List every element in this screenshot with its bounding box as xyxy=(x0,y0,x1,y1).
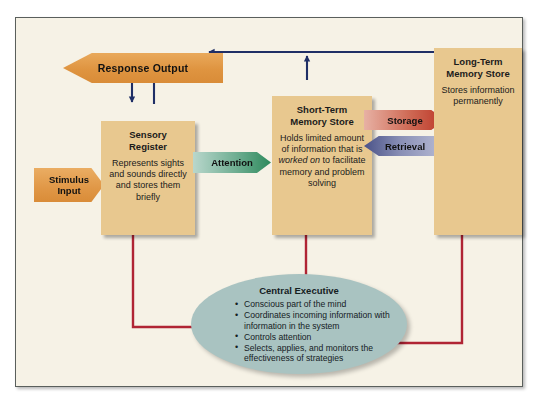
stimulus-input-arrow: Stimulus Input xyxy=(34,168,104,202)
stimulus-input-label-line1: Stimulus xyxy=(49,174,89,185)
stimulus-input-label-line2: Input xyxy=(57,185,80,196)
sensory-register-title-line2: Register xyxy=(101,141,195,153)
short-term-memory-store-box: Short-Term Memory Store Holds limited am… xyxy=(272,96,372,235)
short-term-store-title-line1: Short-Term xyxy=(272,104,372,116)
retrieval-label: Retrieval xyxy=(385,141,425,152)
response-output-label: Response Output xyxy=(98,62,189,74)
diagram-stage: Response Output Stimulus Input Sensory R… xyxy=(0,0,540,405)
short-term-store-body: Holds limited amount of information that… xyxy=(272,127,372,189)
long-term-store-title: Long-Term Memory Store xyxy=(434,48,522,79)
response-output-arrow: Response Output xyxy=(63,53,223,83)
attention-arrow: Attention xyxy=(193,152,271,173)
central-executive-bullet: Coordinates incoming information with in… xyxy=(235,310,399,331)
attention-label: Attention xyxy=(211,157,253,168)
central-executive-title: Central Executive xyxy=(191,274,407,296)
central-executive-bullet: Selects, applies, and monitors the effec… xyxy=(235,343,399,364)
long-term-store-body: Stores information permanently xyxy=(434,79,522,107)
sensory-register-title-line1: Sensory xyxy=(101,129,195,141)
central-executive-bullet: Conscious part of the mind xyxy=(235,299,399,310)
diagram-canvas: Response Output Stimulus Input Sensory R… xyxy=(16,18,522,386)
short-term-store-body-italic: worked on xyxy=(278,155,320,165)
diagram-frame: Response Output Stimulus Input Sensory R… xyxy=(15,17,523,387)
central-executive-oval: Central Executive Conscious part of the … xyxy=(191,274,407,374)
long-term-store-title-line2: Memory Store xyxy=(434,68,522,80)
sensory-register-box: Sensory Register Represents sights and s… xyxy=(101,121,195,235)
long-term-memory-store-box: Long-Term Memory Store Stores informatio… xyxy=(434,48,522,235)
central-executive-bullet: Controls attention xyxy=(235,332,399,343)
sensory-register-body: Represents sights and sounds directly an… xyxy=(101,152,195,203)
storage-label: Storage xyxy=(387,115,422,126)
short-term-store-title: Short-Term Memory Store xyxy=(272,96,372,127)
central-executive-bullet-list: Conscious part of the mind Coordinates i… xyxy=(191,299,407,364)
short-term-store-body-part1: Holds limited amount of information that… xyxy=(280,133,364,154)
short-term-store-title-line2: Memory Store xyxy=(272,116,372,128)
long-term-store-title-line1: Long-Term xyxy=(434,56,522,68)
sensory-register-title: Sensory Register xyxy=(101,121,195,152)
